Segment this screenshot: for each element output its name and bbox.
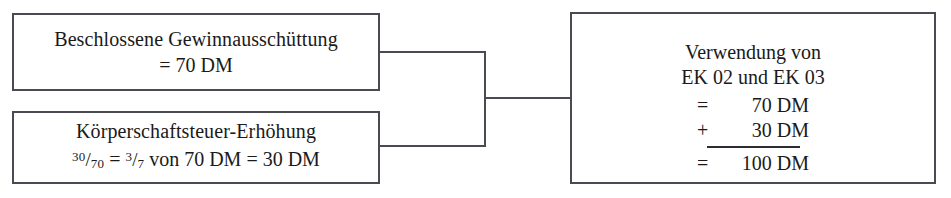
usage-title-line-1: Verwendung von: [685, 40, 821, 65]
tax-equals-1: =: [109, 148, 120, 170]
sum-total-operator: =: [697, 151, 723, 176]
payout-amount: = 70 DM: [159, 52, 233, 78]
tax-result-amount: 30 DM: [263, 148, 320, 170]
tax-equals-2: =: [246, 148, 257, 170]
box-beschlossene-gewinnausschuettung: Beschlossene Gewinnausschüttung = 70 DM: [12, 13, 380, 91]
fraction-3-7: 3/7: [125, 148, 144, 170]
payout-title: Beschlossene Gewinnausschüttung: [54, 26, 338, 52]
box-verwendung-ek02-ek03: Verwendung von EK 02 und EK 03 = 70 DM +…: [570, 12, 936, 184]
sum-operator: +: [697, 118, 723, 143]
sum-value: 70 DM: [723, 93, 809, 118]
usage-title-line-2: EK 02 und EK 03: [681, 65, 824, 90]
sum-total-row: = 100 DM: [697, 151, 809, 176]
sum-rule-divider: [707, 146, 800, 148]
tax-title: Körperschaftsteuer-Erhöhung: [76, 118, 316, 144]
box-koerperschaftsteuer-erhoehung: Körperschaftsteuer-Erhöhung 30/70 = 3/7 …: [12, 111, 380, 184]
fraction-numerator-30: 30: [72, 149, 85, 164]
sum-row: = 70 DM: [697, 93, 809, 118]
sum-operator: =: [697, 93, 723, 118]
sum-row: + 30 DM: [697, 118, 809, 143]
fraction-denominator-70: 70: [91, 156, 104, 171]
flow-diagram: Beschlossene Gewinnausschüttung = 70 DM …: [0, 0, 951, 198]
connector-tax-to-junction: [380, 145, 486, 147]
connector-junction-vertical: [484, 51, 486, 147]
sum-total-value: 100 DM: [723, 151, 809, 176]
fraction-30-70: 30/70: [72, 148, 104, 170]
tax-formula: 30/70 = 3/7 von 70 DM = 30 DM: [72, 144, 320, 177]
tax-von: von: [149, 148, 179, 170]
sum-value: 30 DM: [723, 118, 809, 143]
usage-sum-block: = 70 DM + 30 DM = 100 DM: [697, 93, 809, 176]
fraction-denominator-7: 7: [137, 156, 144, 171]
connector-junction-to-usage: [484, 97, 572, 99]
tax-base-amount: 70 DM: [184, 148, 241, 170]
connector-payout-to-junction: [380, 51, 486, 53]
